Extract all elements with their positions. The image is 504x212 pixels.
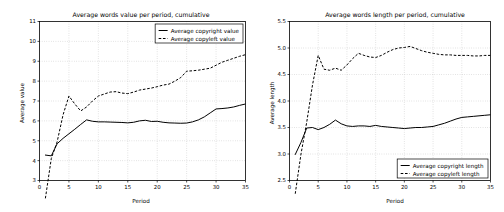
chart-svg-left: 3456789101105101520253035 Average words … <box>0 0 252 212</box>
x-tick-label: 15 <box>124 184 131 190</box>
x-tick-label: 5 <box>67 184 70 190</box>
x-tick-label: 25 <box>430 184 437 190</box>
legend-label: Average copyright length <box>413 163 484 170</box>
series-line-copyright <box>295 115 490 155</box>
series-line-copyleft <box>45 55 245 199</box>
figure-container: 3456789101105101520253035 Average words … <box>0 0 504 212</box>
y-tick-label: 10 <box>29 38 36 44</box>
legend-left[interactable]: Average copyright valueAverage copyleft … <box>155 24 243 43</box>
y-tick-label: 7 <box>33 98 36 104</box>
y-tick-label: 11 <box>29 18 36 24</box>
x-axis-label-right: Period <box>386 198 404 204</box>
y-tick-label: 3 <box>33 177 36 183</box>
x-tick-label: 20 <box>401 184 408 190</box>
x-tick-label: 30 <box>458 184 465 190</box>
series-line-copyright <box>45 104 245 156</box>
x-tick-label: 30 <box>213 184 220 190</box>
grid-group-left <box>40 22 246 181</box>
series-group-left <box>45 55 245 199</box>
chart-title-right: Average words length per period, cumulat… <box>325 11 465 19</box>
legend-label: Average copyleft value <box>171 36 236 43</box>
x-tick-label: 15 <box>372 184 379 190</box>
y-axis-label-left: Average value <box>19 82 26 123</box>
x-tick-label: 35 <box>242 184 249 190</box>
x-tick-label: 0 <box>38 184 42 190</box>
legend-label: Average copyleft length <box>413 171 480 178</box>
y-tick-label: 5.0 <box>277 45 286 51</box>
y-tick-label: 3.5 <box>277 124 286 130</box>
x-tick-label: 25 <box>183 184 190 190</box>
y-tick-label: 2.5 <box>277 177 286 183</box>
chart-title-left: Average words value per period, cumulati… <box>73 11 210 19</box>
legend-right[interactable]: Average copyright lengthAverage copyleft… <box>397 159 488 178</box>
y-tick-label: 5 <box>33 138 36 144</box>
x-tick-label: 10 <box>343 184 350 190</box>
y-tick-label: 3.0 <box>277 151 286 157</box>
legend-label: Average copyright value <box>171 28 240 35</box>
y-tick-label: 6 <box>33 118 37 124</box>
x-axis-label-left: Period <box>132 198 150 204</box>
chart-panel-left: 3456789101105101520253035 Average words … <box>0 0 252 212</box>
y-tick-label: 4.5 <box>277 71 286 77</box>
x-tick-label: 5 <box>316 184 319 190</box>
y-tick-label: 9 <box>33 58 37 64</box>
x-tick-label: 35 <box>487 184 494 190</box>
y-tick-label: 5.5 <box>277 18 286 24</box>
chart-svg-right: 2.53.03.54.04.55.05.505101520253035 Aver… <box>252 0 504 212</box>
x-tick-label: 0 <box>288 184 292 190</box>
y-tick-label: 4 <box>33 158 37 164</box>
axes-group-right <box>288 22 491 183</box>
x-tick-label: 10 <box>95 184 102 190</box>
grid-group-right <box>290 22 491 181</box>
y-axis-label-right: Average length <box>269 81 276 124</box>
y-tick-label: 8 <box>33 78 37 84</box>
chart-panel-right: 2.53.03.54.04.55.05.505101520253035 Aver… <box>252 0 504 212</box>
y-tick-label: 4.0 <box>277 98 286 104</box>
x-tick-label: 20 <box>154 184 161 190</box>
